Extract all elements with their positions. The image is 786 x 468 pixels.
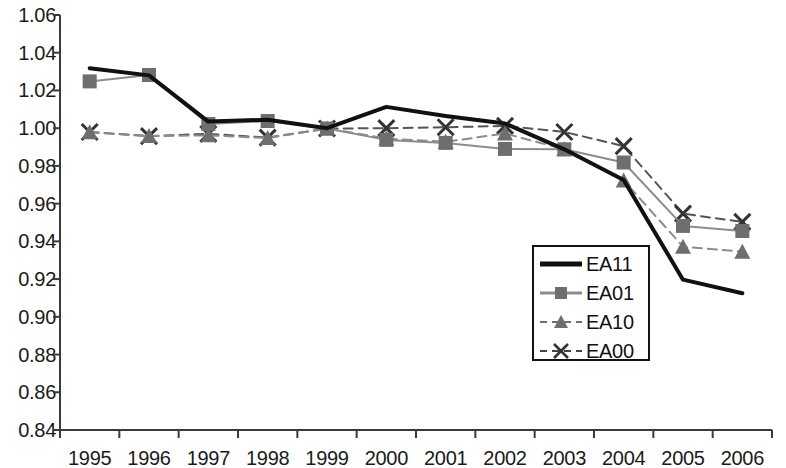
data-point-marker [616, 138, 632, 154]
data-point-marker [617, 156, 631, 170]
chart-plot-area [0, 0, 786, 468]
series-line [90, 75, 743, 231]
legend-swatch-ea00 [538, 338, 584, 364]
legend-swatch-ea01 [538, 280, 584, 306]
chart-container: 1.061.041.021.000.980.960.940.920.900.88… [0, 0, 786, 468]
data-point-marker [675, 239, 691, 254]
legend-label-ea11: EA11 [586, 254, 632, 274]
data-point-marker [439, 136, 453, 150]
data-point-marker [735, 224, 749, 238]
legend-swatch-ea11 [538, 251, 584, 277]
data-point-marker [379, 133, 393, 147]
data-point-marker [83, 74, 97, 88]
legend-label-ea10: EA10 [586, 312, 634, 332]
legend-item-2: EA10 [534, 307, 652, 336]
data-point-marker [676, 219, 690, 233]
chart-legend: EA11 EA01 EA10 EA00 [532, 245, 650, 361]
legend-item-1: EA01 [534, 278, 652, 307]
legend-swatch-ea10 [538, 309, 584, 335]
legend-label-ea01: EA01 [586, 283, 634, 303]
legend-label-ea00: EA00 [586, 341, 634, 361]
legend-item-3: EA00 [534, 336, 652, 365]
data-point-marker [498, 142, 512, 156]
series-ea01 [83, 68, 750, 238]
axis-lines [60, 15, 772, 430]
series-line [90, 129, 743, 252]
legend-item-0: EA11 [534, 249, 652, 278]
series-line [90, 126, 743, 222]
y-axis-ticks [53, 15, 60, 430]
x-axis-ticks [60, 430, 772, 438]
